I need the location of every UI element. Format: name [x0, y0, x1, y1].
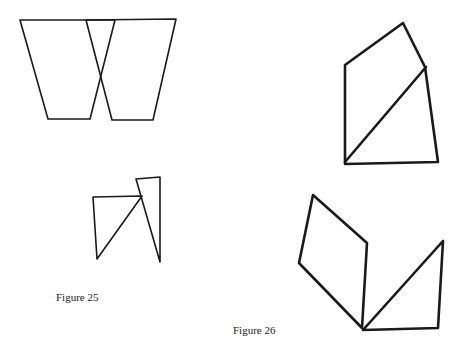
upper-pentagon — [345, 23, 438, 164]
right-trapezoid — [86, 19, 176, 120]
figure-26-drawing — [299, 23, 443, 330]
figure-25-drawing — [20, 19, 176, 262]
left-trapezoid — [20, 20, 115, 119]
figure-25-caption: Figure 25 — [56, 291, 98, 303]
upper-diagonal — [345, 67, 426, 162]
lower-triangle — [363, 241, 443, 330]
figure-26-caption: Figure 26 — [233, 324, 275, 336]
right-tall-triangle — [136, 177, 160, 262]
lower-parallelogram — [299, 195, 367, 328]
left-small-triangle — [93, 196, 142, 259]
